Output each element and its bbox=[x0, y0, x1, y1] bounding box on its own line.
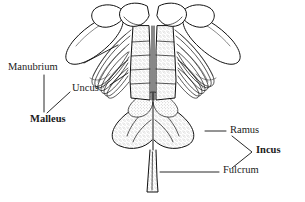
incus-rami bbox=[112, 92, 194, 150]
label-uncus: Uncus bbox=[72, 83, 99, 94]
anatomical-figure: Manubrium Uncus Malleus Ramus Incus Fulc… bbox=[0, 0, 305, 202]
label-manubrium: Manubrium bbox=[8, 62, 58, 73]
label-malleus: Malleus bbox=[30, 114, 66, 125]
leader-uncus-to-malleus bbox=[47, 92, 70, 113]
label-incus: Incus bbox=[256, 145, 281, 156]
trophi-drawing bbox=[0, 0, 305, 202]
label-ramus: Ramus bbox=[230, 125, 259, 136]
fulcrum-stalk bbox=[147, 150, 158, 192]
central-columns bbox=[130, 26, 176, 100]
label-fulcrum: Fulcrum bbox=[223, 165, 259, 176]
